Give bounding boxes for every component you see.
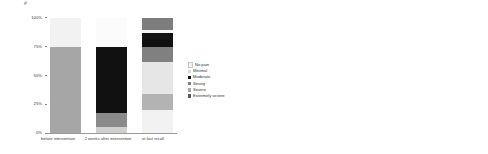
y-axis-tick-label: 75% — [24, 44, 42, 49]
legend-item-extremely-severe[interactable]: Extremely severe — [188, 93, 242, 99]
bar-2-weeks-after-intervention[interactable] — [96, 18, 127, 133]
bar-segment-no-pain — [96, 18, 127, 47]
x-axis-line — [46, 133, 177, 134]
bar-segment-moderate — [142, 33, 173, 47]
bar-segment-extremely-severe — [142, 18, 173, 30]
bar-segment-minimal — [96, 127, 127, 133]
bar-at-last-recall[interactable] — [142, 18, 173, 133]
legend: No pain Minimal Moderate Strong Severe E… — [188, 62, 242, 99]
bar-segment-moderate — [96, 47, 127, 114]
legend-label: Extremely severe — [193, 93, 225, 99]
bars-plot-area — [46, 18, 177, 133]
bar-segment-no-pain — [50, 18, 81, 47]
legend-swatch-icon — [188, 88, 191, 91]
panel-survival-curve: Probability of recurrence-free survival … — [244, 0, 488, 154]
legend-swatch-icon — [188, 82, 191, 85]
panel-stacked-bar-chart: % of patient cohort (n=18) 100% 75% 50% … — [0, 0, 244, 154]
y-axis-tick-label: 0% — [24, 130, 42, 135]
y-axis-tick-label: 100% — [24, 15, 42, 20]
legend-swatch-icon — [188, 70, 191, 73]
legend-swatch-icon — [188, 94, 191, 97]
legend-swatch-icon — [188, 62, 193, 67]
x-axis-tick-label-at-last-recall: at last recall — [128, 136, 178, 142]
bar-segment-severe — [142, 94, 173, 110]
legend-swatch-icon — [188, 76, 191, 79]
bar-segment-strong — [50, 47, 81, 133]
bar-before-intervention[interactable] — [50, 18, 81, 133]
bar-segment-severe — [96, 113, 127, 127]
bar-segment-minimal — [142, 62, 173, 94]
bar-segment-no-pain-lower — [142, 110, 173, 133]
y-axis-tick-label: 50% — [24, 73, 42, 78]
bar-segment-strong — [142, 47, 173, 62]
figure-container: % of patient cohort (n=18) 100% 75% 50% … — [0, 0, 488, 154]
y-axis-tick-label: 25% — [24, 101, 42, 106]
y-axis-title: % of patient cohort (n=18) — [21, 0, 31, 26]
